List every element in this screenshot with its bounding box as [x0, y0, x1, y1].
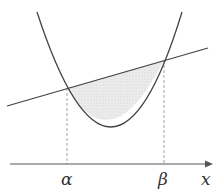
diagram-canvas: α β x: [0, 0, 215, 193]
shaded-region: [67, 60, 164, 120]
alpha-label: α: [61, 169, 73, 189]
x-axis-arrow-icon: [205, 161, 213, 168]
x-axis-label: x: [201, 169, 211, 189]
beta-label: β: [157, 169, 168, 189]
